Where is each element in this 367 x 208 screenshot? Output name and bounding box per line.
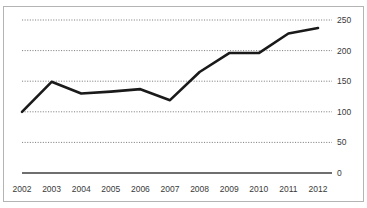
x-axis-tick-label: 2007 <box>155 184 185 194</box>
chart-frame: 050100150200250 200220032004200520062007… <box>3 6 364 202</box>
x-axis-tick-label: 2003 <box>37 184 67 194</box>
x-axis-tick-label: 2012 <box>303 184 333 194</box>
x-axis-tick-label: 2004 <box>66 184 96 194</box>
y-axis-tick-label: 200 <box>337 46 351 56</box>
chart-plot-area <box>4 7 363 201</box>
clipped-title-text <box>4 0 204 3</box>
x-axis-tick-label: 2006 <box>125 184 155 194</box>
x-axis-tick-label: 2009 <box>214 184 244 194</box>
y-axis-tick-label: 100 <box>337 107 351 117</box>
x-axis-tick-label: 2002 <box>7 184 37 194</box>
y-axis-tick-label: 150 <box>337 76 351 86</box>
line-chart-widget: 050100150200250 200220032004200520062007… <box>0 0 367 208</box>
gridlines-group <box>22 20 332 142</box>
y-axis-tick-label: 0 <box>337 168 342 178</box>
y-axis-tick-label: 250 <box>337 15 351 25</box>
x-axis-tick-label: 2008 <box>185 184 215 194</box>
y-axis-tick-label: 50 <box>337 137 346 147</box>
x-axis-tick-label: 2010 <box>244 184 274 194</box>
data-series-line <box>22 28 318 112</box>
x-axis-tick-label: 2005 <box>96 184 126 194</box>
x-axis-tick-label: 2011 <box>273 184 303 194</box>
